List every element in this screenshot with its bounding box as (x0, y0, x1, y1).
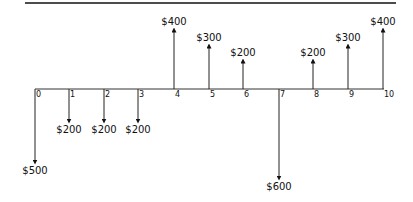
axis-tick-labels: 012345678910 (36, 90, 394, 99)
amount-label: $500 (22, 165, 47, 176)
cash-flow-up-period-6: $200 (230, 47, 255, 89)
period-label: 3 (139, 90, 144, 99)
cash-flow-up-period-10: $400 (370, 16, 395, 89)
cash-flow-down-period-7: $600 (266, 89, 291, 192)
period-label: 4 (175, 90, 180, 99)
cash-flow-down-period-3: $200 (125, 89, 150, 135)
amount-label: $300 (335, 32, 360, 43)
period-label: 0 (36, 90, 41, 99)
amount-label: $400 (370, 16, 395, 27)
period-label: 1 (70, 90, 75, 99)
amount-label: $600 (266, 181, 291, 192)
cash-flow-up-period-9: $300 (335, 32, 360, 89)
cash-flow-down-period-1: $200 (56, 89, 81, 135)
amount-label: $300 (196, 32, 221, 43)
cash-flow-diagram: 012345678910 $500$200$200$200$400$300$20… (0, 0, 413, 202)
period-label: 9 (349, 90, 354, 99)
amount-label: $200 (56, 124, 81, 135)
period-label: 8 (314, 90, 319, 99)
cash-flow-up-period-8: $200 (300, 47, 325, 89)
amount-label: $200 (91, 124, 116, 135)
period-label: 2 (105, 90, 110, 99)
amount-label: $200 (125, 124, 150, 135)
amount-label: $400 (161, 16, 186, 27)
cash-flow-down-period-0: $500 (22, 89, 47, 176)
period-label: 6 (244, 90, 249, 99)
period-label: 7 (280, 90, 285, 99)
cash-flow-up-period-4: $400 (161, 16, 186, 89)
cash-flow-arrows: $500$200$200$200$400$300$200$600$200$300… (22, 16, 395, 192)
cash-flow-down-period-2: $200 (91, 89, 116, 135)
cash-flow-up-period-5: $300 (196, 32, 221, 89)
amount-label: $200 (300, 47, 325, 58)
period-label: 10 (384, 90, 394, 99)
period-label: 5 (210, 90, 215, 99)
amount-label: $200 (230, 47, 255, 58)
